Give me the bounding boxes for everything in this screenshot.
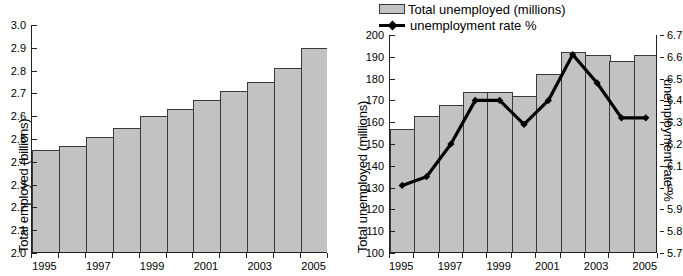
x-tick-mark [300, 253, 301, 258]
x-tick-mark [273, 253, 274, 258]
x-tick-mark [31, 253, 32, 258]
y-tick-mark [390, 122, 395, 123]
y-tick-mark [390, 166, 395, 167]
legend-item-unemployment-rate: unemployment rate % [379, 17, 566, 33]
y-tick-label: 140 [341, 160, 384, 171]
chart-legend: Total unemployed (millions) unemployment… [379, 1, 566, 33]
x-tick-mark [139, 253, 140, 258]
x-tick-mark [112, 253, 113, 258]
y-tick-label: 2.1 [0, 225, 26, 236]
bar [247, 82, 275, 252]
y-tick-mark [32, 230, 37, 231]
x-tick-mark [657, 253, 658, 258]
bar [193, 100, 221, 252]
y2-tick-label: 6.1 [667, 160, 682, 171]
y-tick-mark [32, 139, 37, 140]
y-tick-label: 2.7 [0, 88, 26, 99]
y2-tick-label: 6.5 [667, 73, 682, 84]
y-tick-label: 110 [341, 226, 384, 237]
y-tick-label: 160 [341, 117, 384, 128]
y-tick-mark [32, 162, 37, 163]
y-tick-label: 130 [341, 182, 384, 193]
x-tick-mark [535, 253, 536, 258]
y2-tick-mark [660, 122, 664, 123]
y2-tick-label: 6.2 [667, 139, 682, 150]
y2-tick-mark [660, 35, 664, 36]
y2-tick-label: 6.7 [667, 30, 682, 41]
bar [32, 150, 60, 252]
bar [59, 146, 87, 252]
y2-tick-mark [660, 79, 664, 80]
x-tick-mark [608, 253, 609, 258]
x-tick-mark [486, 253, 487, 258]
y-tick-label: 190 [341, 51, 384, 62]
x-tick-mark [560, 253, 561, 258]
x-tick-label: 2003 [247, 261, 271, 272]
y-tick-mark [32, 93, 37, 94]
y-tick-label: 2.9 [0, 42, 26, 53]
y-tick-mark [390, 100, 395, 101]
line-marker: 2005: 6.32% [642, 114, 649, 121]
x-tick-label: 1995 [389, 261, 413, 272]
bar [220, 91, 248, 252]
x-tick-label: 1997 [86, 261, 110, 272]
y-tick-mark [390, 57, 395, 58]
x-tick-mark [327, 253, 328, 258]
x-tick-mark [58, 253, 59, 258]
bar [167, 109, 195, 252]
chart-panel-total-unemployed: Total unemployed (millions) unemployment… [341, 0, 683, 276]
x-tick-mark [192, 253, 193, 258]
x-tick-label: 2001 [535, 261, 559, 272]
y2-tick-label: 6.6 [667, 51, 682, 62]
x-tick-label: 1995 [32, 261, 56, 272]
y-tick-label: 2.3 [0, 179, 26, 190]
y2-tick-mark [660, 209, 664, 210]
y-tick-label: 150 [341, 139, 384, 150]
y2-tick-label: 6 [667, 182, 673, 193]
x-tick-mark [246, 253, 247, 258]
y2-tick-label: 5.8 [667, 226, 682, 237]
y2-tick-mark [660, 253, 664, 254]
y2-tick-label: 6.4 [667, 95, 682, 106]
y2-tick-mark [660, 144, 664, 145]
y2-tick-mark [660, 100, 664, 101]
figure-two-panel-chart: Total employed (billions) 2.02.12.22.32.… [0, 0, 683, 276]
y-tick-label: 100 [341, 248, 384, 259]
bar [113, 128, 141, 252]
x-tick-mark [511, 253, 512, 258]
y-tick-mark [32, 207, 37, 208]
y-tick-mark [32, 25, 37, 26]
x-tick-label: 2003 [584, 261, 608, 272]
bar [274, 68, 302, 252]
y-tick-label: 170 [341, 95, 384, 106]
y-tick-mark [390, 188, 395, 189]
y-tick-mark [32, 71, 37, 72]
bar-series-total-employed [32, 25, 327, 252]
line-series-unemployment-rate: 1995: 6.01%1996: 6.05%1997: 6.2%1998: 6.… [390, 35, 658, 253]
y2-tick-label: 5.9 [667, 204, 682, 215]
plot-area-left-chart [31, 25, 327, 253]
x-tick-mark [389, 253, 390, 258]
legend-label-total-unemployed: Total unemployed (millions) [408, 2, 566, 17]
y-tick-label: 180 [341, 73, 384, 84]
y2-tick-mark [660, 188, 664, 189]
x-tick-mark [584, 253, 585, 258]
bar [140, 116, 168, 252]
legend-bar-swatch-icon [379, 4, 405, 14]
y-tick-mark [390, 79, 395, 80]
y2-tick-mark [660, 231, 664, 232]
bar [86, 137, 114, 252]
y-tick-label: 2.8 [0, 65, 26, 76]
y-tick-label: 2.0 [0, 248, 26, 259]
y-tick-label: 2.5 [0, 134, 26, 145]
y-tick-label: 2.4 [0, 156, 26, 167]
y-tick-mark [32, 48, 37, 49]
line-path-unemployment-rate [402, 55, 646, 186]
y-tick-label: 120 [341, 204, 384, 215]
y2-tick-mark [660, 166, 664, 167]
y2-tick-label: 6.3 [667, 117, 682, 128]
y-tick-label: 200 [341, 30, 384, 41]
y-tick-mark [390, 35, 395, 36]
y-tick-label: 3.0 [0, 20, 26, 31]
x-tick-label: 1997 [438, 261, 462, 272]
